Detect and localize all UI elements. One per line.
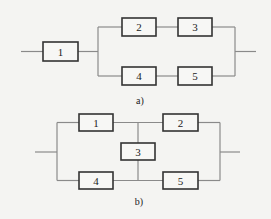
svg-text:4: 4 bbox=[136, 70, 142, 82]
block-b-5: 5 bbox=[163, 172, 198, 189]
svg-text:2: 2 bbox=[136, 21, 142, 33]
svg-text:4: 4 bbox=[93, 175, 99, 187]
block-b-4: 4 bbox=[79, 172, 113, 189]
block-a-5: 5 bbox=[178, 67, 212, 85]
block-b-2: 2 bbox=[163, 114, 198, 131]
svg-text:1: 1 bbox=[93, 117, 99, 129]
svg-text:3: 3 bbox=[192, 21, 198, 33]
block-b-1: 1 bbox=[79, 114, 113, 131]
svg-text:5: 5 bbox=[178, 175, 184, 187]
caption-a: a) bbox=[136, 95, 144, 107]
block-a-2: 2 bbox=[122, 18, 156, 36]
diagram-a: 1 2 3 4 5 a) bbox=[43, 18, 212, 107]
svg-text:1: 1 bbox=[58, 46, 64, 58]
svg-text:3: 3 bbox=[135, 146, 141, 158]
block-b-3: 3 bbox=[121, 143, 155, 160]
reliability-block-diagrams: 1 2 3 4 5 a) bbox=[0, 0, 271, 219]
caption-b: b) bbox=[135, 196, 143, 208]
block-a-1: 1 bbox=[43, 42, 78, 61]
block-a-4: 4 bbox=[122, 67, 156, 85]
svg-text:5: 5 bbox=[192, 70, 198, 82]
svg-text:2: 2 bbox=[178, 117, 184, 129]
block-a-3: 3 bbox=[178, 18, 212, 36]
